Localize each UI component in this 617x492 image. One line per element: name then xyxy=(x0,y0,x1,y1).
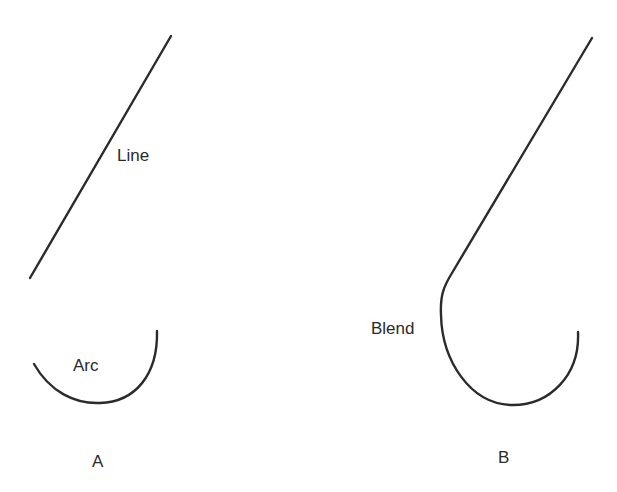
line-label: Line xyxy=(117,146,149,165)
caption-b: B xyxy=(498,448,509,467)
blend-label: Blend xyxy=(371,319,414,338)
panel-a: Line Arc A xyxy=(30,36,171,471)
caption-a: A xyxy=(92,452,104,471)
panel-b: Blend B xyxy=(371,38,592,467)
line-blend-arc-b xyxy=(441,38,592,405)
diagram-canvas: Line Arc A Blend B xyxy=(0,0,617,492)
line-a xyxy=(30,36,171,278)
arc-label: Arc xyxy=(73,356,99,375)
